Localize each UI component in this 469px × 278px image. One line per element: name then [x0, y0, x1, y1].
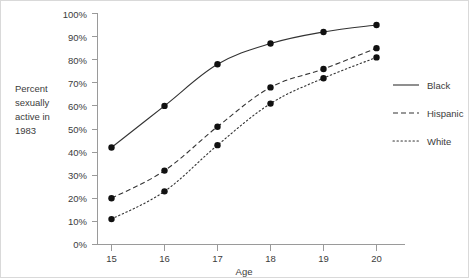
y-tick-label-9: 90%	[68, 32, 88, 43]
x-axis-ticks: 15 16 17 18 19 20	[106, 245, 382, 265]
y-axis-label: Percent sexually active in 1983	[15, 83, 50, 136]
legend-item-hispanic[interactable]: Hispanic	[393, 108, 464, 119]
data-point-black-17	[214, 61, 220, 67]
data-point-black-16	[161, 103, 167, 109]
data-point-white-15	[108, 216, 114, 222]
y-tick-label-6: 60%	[68, 101, 88, 112]
y-tick-label-0: 0%	[73, 239, 87, 250]
data-point-hispanic-19	[320, 66, 326, 72]
data-point-black-15	[108, 144, 114, 150]
y-tick-label-4: 40%	[68, 147, 88, 158]
data-point-hispanic-16	[161, 167, 167, 173]
y-axis-label-line-1: sexually	[15, 97, 50, 108]
x-tick-label-1: 16	[159, 253, 170, 264]
series-white	[108, 54, 379, 222]
data-point-white-16	[161, 188, 167, 194]
y-tick-label-8: 80%	[68, 55, 88, 66]
legend-item-black[interactable]: Black	[393, 80, 450, 91]
data-point-white-17	[214, 142, 220, 148]
data-series-layer	[108, 22, 379, 222]
y-axis-label-line-3: 1983	[15, 125, 36, 136]
data-point-black-18	[267, 40, 273, 46]
x-tick-label-4: 19	[318, 253, 329, 264]
data-point-black-19	[320, 29, 326, 35]
x-tick-label-0: 15	[106, 253, 117, 264]
chart-figure: Percent sexually active in 1983 0% 10% 2…	[0, 0, 469, 278]
legend-item-white[interactable]: White	[393, 136, 451, 147]
y-tick-label-7: 70%	[68, 78, 88, 89]
legend-label-black: Black	[427, 80, 450, 91]
y-tick-label-10: 100%	[63, 9, 88, 20]
chart-legend: Black Hispanic White	[393, 80, 464, 147]
series-line-black	[112, 25, 377, 147]
series-line-white	[112, 57, 377, 219]
y-tick-label-5: 50%	[68, 124, 88, 135]
data-point-black-20	[373, 22, 379, 28]
data-point-hispanic-18	[267, 84, 273, 90]
x-axis-title: Age	[236, 266, 253, 277]
data-point-hispanic-17	[214, 123, 220, 129]
data-point-white-18	[267, 100, 273, 106]
line-chart-plot: Percent sexually active in 1983 0% 10% 2…	[1, 1, 469, 278]
series-black	[108, 22, 379, 151]
y-tick-label-2: 20%	[68, 193, 88, 204]
data-point-hispanic-15	[108, 195, 114, 201]
legend-label-white: White	[427, 136, 451, 147]
x-tick-label-5: 20	[371, 253, 382, 264]
legend-label-hispanic: Hispanic	[427, 108, 464, 119]
x-tick-label-3: 18	[265, 253, 276, 264]
data-point-white-19	[320, 75, 326, 81]
y-tick-label-1: 10%	[68, 216, 88, 227]
data-point-white-20	[373, 54, 379, 60]
x-tick-label-2: 17	[212, 253, 223, 264]
y-tick-label-3: 30%	[68, 170, 88, 181]
y-axis-label-line-2: active in	[15, 111, 50, 122]
y-axis-ticks: 0% 10% 20% 30% 40% 50% 60% 70% 80% 90% 1…	[63, 9, 98, 250]
data-point-hispanic-20	[373, 45, 379, 51]
y-axis-label-line-0: Percent	[15, 83, 48, 94]
